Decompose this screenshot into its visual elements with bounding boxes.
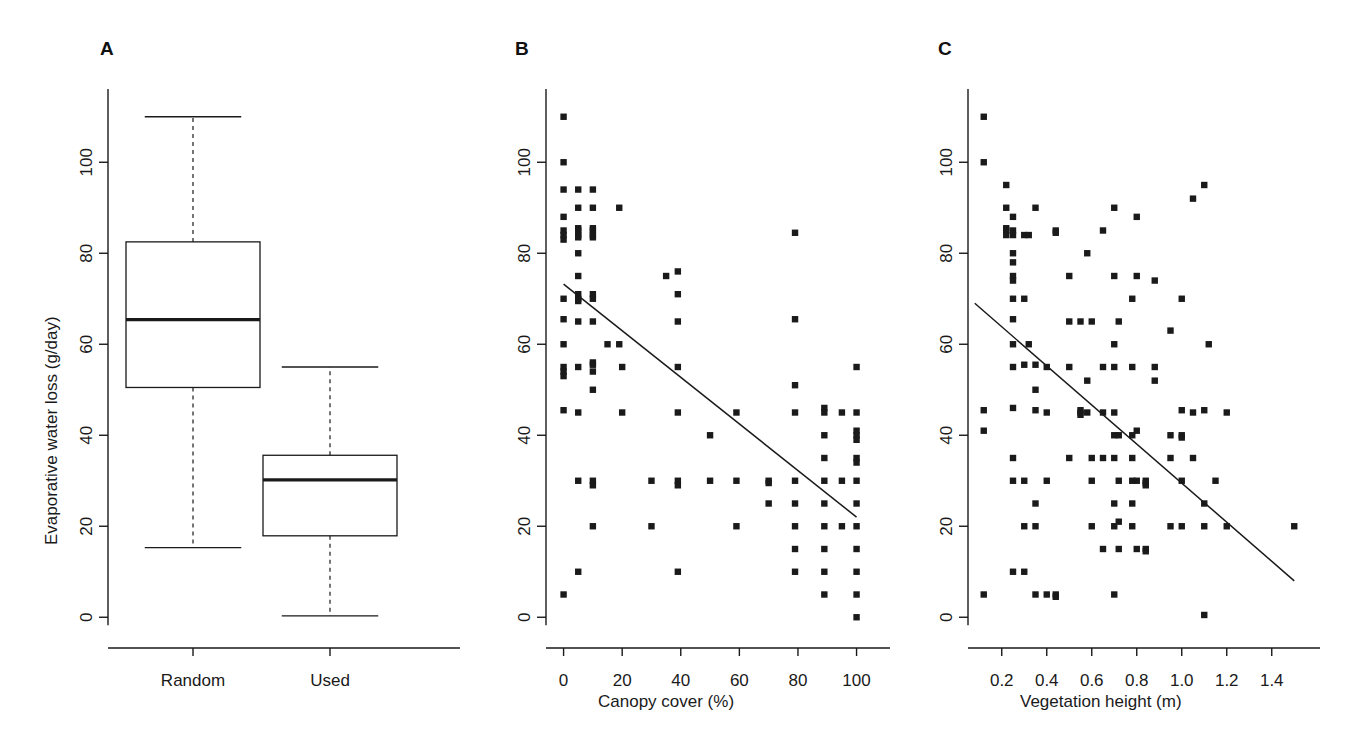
data-point	[1224, 409, 1230, 415]
data-point	[1084, 377, 1090, 383]
axis-tick-label: 60	[937, 335, 956, 354]
data-point	[1032, 500, 1038, 506]
data-point	[575, 273, 581, 279]
data-point	[792, 316, 798, 322]
data-point	[675, 318, 681, 324]
data-point	[853, 500, 859, 506]
data-point	[821, 500, 827, 506]
data-point	[1010, 405, 1016, 411]
data-point	[1152, 277, 1158, 283]
data-point	[981, 428, 987, 434]
data-point	[675, 364, 681, 370]
axis-tick-label: 0.8	[1125, 671, 1149, 690]
data-point	[1129, 364, 1135, 370]
data-point	[619, 364, 625, 370]
data-point	[560, 186, 566, 192]
data-point	[1179, 407, 1185, 413]
panel-a-label: A	[100, 38, 114, 60]
data-point	[1190, 409, 1196, 415]
data-point	[1044, 591, 1050, 597]
data-point	[575, 409, 581, 415]
data-point	[792, 569, 798, 575]
data-point	[733, 523, 739, 529]
data-point	[1089, 523, 1095, 529]
data-point	[560, 373, 566, 379]
data-point	[1010, 250, 1016, 256]
figure-root: A Evaporative water loss (g/day) 0204060…	[0, 0, 1364, 750]
data-point	[1021, 296, 1027, 302]
data-point	[821, 523, 827, 529]
data-point	[765, 480, 771, 486]
data-point	[590, 387, 596, 393]
axis-tick-label: 100	[515, 148, 534, 176]
data-point	[853, 437, 859, 443]
data-point	[1179, 434, 1185, 440]
data-point	[1111, 364, 1117, 370]
axis-tick-label: 40	[77, 426, 96, 445]
axis-tick-label: 80	[789, 671, 808, 690]
data-point	[590, 296, 596, 302]
data-point	[853, 459, 859, 465]
axis-tick-label: 100	[77, 148, 96, 176]
data-point	[590, 318, 596, 324]
data-point	[1167, 327, 1173, 333]
data-point	[1010, 455, 1016, 461]
data-point	[560, 214, 566, 220]
data-point	[590, 368, 596, 374]
data-point	[648, 478, 654, 484]
data-point	[1111, 409, 1117, 415]
data-point	[590, 205, 596, 211]
data-point	[1116, 318, 1122, 324]
data-point	[853, 523, 859, 529]
data-point	[575, 569, 581, 575]
data-point	[1032, 407, 1038, 413]
axis-tick-label: 20	[937, 517, 956, 536]
boxplot-random	[126, 117, 260, 656]
data-point	[839, 409, 845, 415]
axis-tick-label: 40	[937, 426, 956, 445]
data-point	[1179, 523, 1185, 529]
data-point	[1167, 523, 1173, 529]
data-point	[853, 364, 859, 370]
data-point	[1003, 205, 1009, 211]
data-point	[821, 546, 827, 552]
x-axis-title-vegheight: Vegetation height (m)	[1020, 692, 1182, 712]
panel-b-label: B	[515, 38, 529, 60]
data-point	[675, 569, 681, 575]
data-point	[616, 205, 622, 211]
data-point	[1291, 523, 1297, 529]
axis-tick-label: 80	[515, 244, 534, 263]
data-point	[604, 341, 610, 347]
data-point	[1066, 364, 1072, 370]
data-point	[1032, 362, 1038, 368]
data-point	[675, 291, 681, 297]
data-point	[1116, 546, 1122, 552]
axis-tick-label: 100	[842, 671, 870, 690]
data-point	[853, 546, 859, 552]
data-point	[821, 569, 827, 575]
data-point	[1201, 612, 1207, 618]
data-point	[707, 432, 713, 438]
data-point	[1089, 318, 1095, 324]
data-point	[1053, 230, 1059, 236]
data-point	[792, 230, 798, 236]
data-point	[733, 409, 739, 415]
data-point	[1089, 455, 1095, 461]
data-point	[1021, 523, 1027, 529]
data-point	[1134, 478, 1140, 484]
data-point	[1010, 232, 1016, 238]
data-point	[675, 268, 681, 274]
data-point	[792, 523, 798, 529]
data-point	[1201, 407, 1207, 413]
axis-tick-label: 60	[515, 335, 534, 354]
data-point	[1010, 569, 1016, 575]
data-point	[675, 409, 681, 415]
data-point	[1010, 316, 1016, 322]
data-point	[560, 591, 566, 597]
data-point	[1077, 412, 1083, 418]
data-point	[1044, 409, 1050, 415]
data-point	[1044, 478, 1050, 484]
data-point	[1116, 432, 1122, 438]
data-point	[1089, 478, 1095, 484]
panel-c-scatter: C Vegetation height (m) 0204060801000.20…	[910, 0, 1364, 750]
